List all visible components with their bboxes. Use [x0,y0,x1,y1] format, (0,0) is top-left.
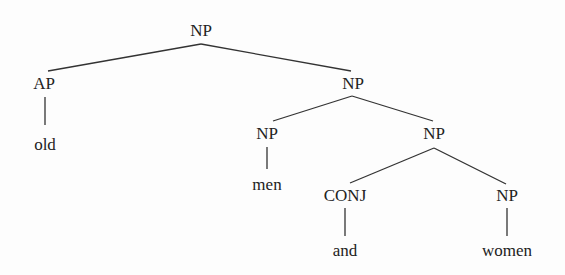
tree-node-old: old [34,136,56,153]
tree-edge [273,96,352,121]
tree-node-conj: CONJ [324,187,367,204]
tree-edges [0,0,565,275]
tree-node-np: NP [496,187,518,204]
tree-node-np: NP [256,125,278,142]
tree-edge [48,44,201,71]
tree-edge [352,96,433,121]
tree-edge [434,148,506,184]
tree-node-ap: AP [33,75,55,92]
tree-node-np: NP [190,22,212,39]
tree-node-np: NP [342,75,364,92]
syntax-tree-diagram: NPAPNPoldNPNPmenCONJNPandwomen [0,0,565,275]
tree-node-women: women [482,242,532,259]
tree-edge [201,44,351,71]
tree-node-np: NP [423,125,445,142]
tree-node-men: men [252,176,281,193]
tree-node-and: and [333,242,358,259]
tree-edge [350,148,434,183]
